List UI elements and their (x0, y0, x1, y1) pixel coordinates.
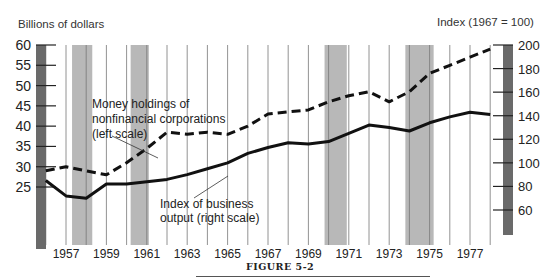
x-tick-label: 1957 (53, 247, 80, 261)
x-tick-label: 1959 (93, 247, 120, 261)
right-tick-label: 160 (518, 85, 540, 100)
left-tick-label: 40 (15, 118, 31, 134)
money-holdings-annotation: Money holdings of (92, 97, 190, 111)
x-tick-label: 1961 (133, 247, 160, 261)
right-axis: 6080100120140160180200 (493, 38, 540, 235)
x-tick-label: 1977 (457, 247, 484, 261)
left-tick-label: 30 (15, 159, 31, 175)
left-axis-title: Billions of dollars (18, 18, 104, 30)
left-tick-label: 60 (15, 37, 31, 53)
x-tick-label: 1963 (174, 247, 201, 261)
money-holdings-annotation: (left scale) (92, 127, 147, 141)
x-tick-label: 1969 (295, 247, 322, 261)
right-tick-label: 180 (518, 62, 540, 77)
left-axis: 2530354045505560 (15, 37, 56, 249)
x-tick-label: 1965 (214, 247, 241, 261)
right-tick-label: 100 (518, 156, 540, 171)
right-tick-label: 80 (518, 179, 532, 194)
money-holdings-annotation: nonfinancial corporations (92, 112, 225, 126)
figure-label: FIGURE 5-2 (246, 261, 314, 272)
right-tick-label: 120 (518, 132, 540, 147)
recession-band (131, 45, 149, 245)
left-tick-label: 55 (15, 57, 31, 73)
right-tick-label: 60 (518, 203, 532, 218)
x-tick-label: 1973 (376, 247, 403, 261)
left-tick-label: 50 (15, 78, 31, 94)
right-tick-label: 140 (518, 109, 540, 124)
business-output-annotation: output (right scale) (160, 211, 259, 225)
left-tick-label: 25 (15, 179, 31, 195)
left-tick-label: 45 (15, 98, 31, 114)
right-axis-bar (503, 45, 513, 235)
x-axis: 1957195919611963196519671969197119731975… (53, 247, 484, 261)
x-tick-label: 1975 (416, 247, 443, 261)
right-tick-label: 200 (518, 38, 540, 53)
left-tick-label: 35 (15, 138, 31, 154)
x-tick-label: 1971 (335, 247, 362, 261)
recession-band (325, 45, 347, 245)
right-axis-title: Index (1967 = 100) (437, 16, 534, 28)
dual-axis-line-chart: 2530354045505560 6080100120140160180200 … (0, 0, 552, 280)
figure-rule (196, 276, 430, 277)
x-tick-label: 1967 (255, 247, 282, 261)
recession-band (72, 45, 92, 245)
business-output-annotation: Index of business (160, 197, 253, 211)
